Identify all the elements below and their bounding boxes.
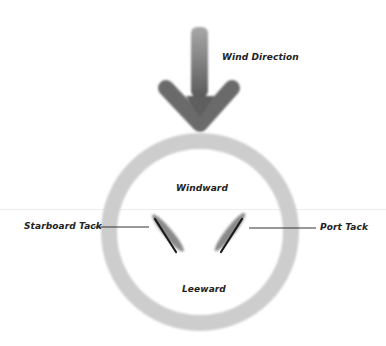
diagram-canvas [0, 0, 386, 346]
wind-circle [109, 141, 291, 323]
leeward-label: Leeward [182, 284, 226, 294]
windward-label: Windward [176, 183, 228, 193]
wind-arrow-icon [166, 27, 232, 124]
port-sail-icon [212, 210, 249, 253]
starboard-tack-label: Starboard Tack [24, 221, 102, 231]
port-tack-label: Port Tack [320, 222, 368, 232]
wind-direction-label: Wind Direction [222, 52, 299, 62]
starboard-sail-icon [149, 212, 187, 255]
